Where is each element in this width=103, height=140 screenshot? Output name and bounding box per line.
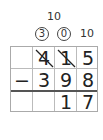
circled-hundreds-digit: 3 (35, 27, 49, 41)
result-tens: 1 (55, 91, 77, 113)
minus-sign: − (11, 69, 33, 91)
minuend-ones: 5 (77, 47, 99, 69)
subtrahend-ones: 8 (77, 69, 99, 91)
strike-through-icon (55, 47, 77, 69)
subtrahend-tens: 9 (55, 69, 77, 91)
result-ones: 7 (77, 91, 99, 113)
borrow-ten-tens: 10 (45, 11, 63, 23)
strike-through-icon (33, 47, 55, 69)
borrow-ten-ones: 10 (78, 28, 96, 40)
circled-tens-digit: 0 (57, 27, 71, 41)
subtrahend-hundreds: 3 (33, 69, 55, 91)
result-hundreds (33, 91, 55, 113)
subtraction-grid: 4 1 5 − 3 9 8 1 7 (10, 46, 98, 112)
